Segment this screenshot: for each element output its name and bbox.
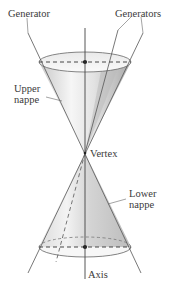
label-generator: Generator <box>8 8 50 19</box>
lower-nappe-leader <box>108 199 126 204</box>
label-lower-nappe-1: Lower <box>129 188 157 199</box>
label-lower-nappe-2: nappe <box>129 199 154 210</box>
generator-leader <box>27 18 28 33</box>
label-upper-nappe-1: Upper <box>14 83 41 94</box>
label-axis: Axis <box>88 269 108 280</box>
label-vertex: Vertex <box>90 148 118 159</box>
label-upper-nappe-2: nappe <box>14 94 39 105</box>
double-cone-diagram: Generator Generators Upper nappe Vertex … <box>0 0 169 288</box>
vertex-point <box>84 152 87 155</box>
generators-leader-b <box>141 17 143 33</box>
label-generators: Generators <box>115 8 161 19</box>
